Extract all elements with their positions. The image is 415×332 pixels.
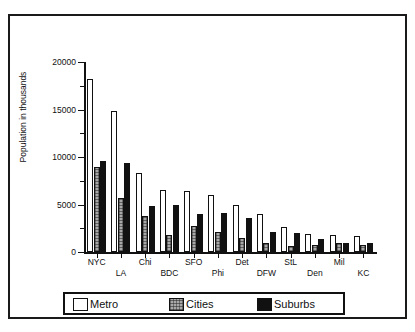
- x-tick-label-KC: KC: [357, 268, 369, 278]
- legend-label-cities: Cities: [186, 299, 214, 310]
- bar-StL-Suburbs: [294, 233, 300, 252]
- bar-Mil-Suburbs: [343, 243, 349, 252]
- bar-NYC-Cities: [94, 167, 100, 252]
- bar-StL-Metro: [281, 227, 287, 252]
- bar-NYC-Metro: [87, 79, 93, 252]
- x-tick-label-DFW: DFW: [257, 268, 276, 278]
- x-tick-label-BDC: BDC: [160, 268, 178, 278]
- bar-Mil-Cities: [336, 243, 342, 252]
- bar-Phi-Metro: [208, 195, 214, 252]
- bar-KC-Suburbs: [367, 243, 373, 253]
- x-tick-KC: [363, 254, 364, 258]
- legend-entry-suburbs: Suburbs: [257, 297, 315, 312]
- legend-swatch-cities: [169, 298, 184, 311]
- bar-Den-Metro: [305, 234, 311, 252]
- bar-SFO-Suburbs: [197, 214, 203, 252]
- x-tick-label-Det: Det: [236, 257, 249, 267]
- bar-BDC-Suburbs: [173, 205, 179, 252]
- bar-Mil-Metro: [330, 235, 336, 252]
- bar-Phi-Cities: [215, 232, 221, 252]
- x-tick-label-StL: StL: [284, 257, 297, 267]
- bar-Det-Suburbs: [246, 218, 252, 252]
- bar-NYC-Suburbs: [100, 161, 106, 252]
- legend-entry-metro: Metro: [73, 297, 118, 312]
- bar-SFO-Cities: [191, 226, 197, 252]
- x-tick-label-Den: Den: [307, 268, 323, 278]
- x-tick-DFW: [266, 254, 267, 258]
- x-tick-label-SFO: SFO: [185, 257, 202, 267]
- legend-label-suburbs: Suburbs: [274, 299, 315, 310]
- legend-swatch-metro: [73, 298, 88, 311]
- x-tick-BDC: [169, 254, 170, 258]
- chart-legend: MetroCitiesSuburbs: [63, 292, 345, 315]
- bar-Den-Suburbs: [318, 239, 324, 252]
- x-tick-label-Chi: Chi: [139, 257, 152, 267]
- bar-LA-Cities: [118, 198, 124, 252]
- bar-series-group: [0, 0, 415, 332]
- bar-Chi-Cities: [142, 216, 148, 252]
- bar-Chi-Metro: [136, 173, 142, 252]
- bar-Phi-Suburbs: [221, 213, 227, 252]
- bar-LA-Metro: [111, 111, 117, 252]
- bar-KC-Metro: [354, 236, 360, 252]
- plot-area: Population in thousands 0500010000150002…: [0, 0, 415, 332]
- x-tick-label-NYC: NYC: [88, 257, 106, 267]
- x-tick-Den: [315, 254, 316, 258]
- bar-Chi-Suburbs: [149, 206, 155, 252]
- bar-DFW-Metro: [257, 214, 263, 252]
- bar-DFW-Suburbs: [270, 232, 276, 252]
- bar-Det-Metro: [233, 205, 239, 252]
- x-tick-Phi: [218, 254, 219, 258]
- bar-LA-Suburbs: [124, 163, 130, 252]
- bar-Det-Cities: [239, 238, 245, 252]
- bar-KC-Cities: [360, 245, 366, 252]
- legend-entry-cities: Cities: [169, 297, 214, 312]
- figure-canvas: Population in thousands 0500010000150002…: [0, 0, 415, 332]
- x-tick-label-Phi: Phi: [212, 268, 224, 278]
- x-tick-label-Mil: Mil: [334, 257, 345, 267]
- bar-StL-Cities: [288, 246, 294, 252]
- bar-DFW-Cities: [263, 243, 269, 253]
- legend-label-metro: Metro: [90, 299, 118, 310]
- x-tick-LA: [121, 254, 122, 258]
- x-tick-label-LA: LA: [116, 268, 126, 278]
- bar-BDC-Cities: [166, 235, 172, 252]
- bar-Den-Cities: [312, 245, 318, 252]
- legend-swatch-suburbs: [257, 298, 272, 311]
- bar-SFO-Metro: [184, 191, 190, 252]
- bar-BDC-Metro: [160, 190, 166, 252]
